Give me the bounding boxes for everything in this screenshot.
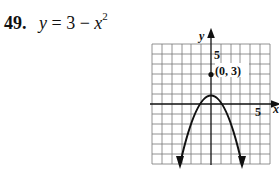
x-tick-label: 5: [255, 105, 261, 119]
vertex-point: [208, 72, 213, 77]
axes: [150, 33, 276, 165]
parabola-graph: y x 5 5 (0, 3): [0, 0, 279, 177]
y-axis-label: y: [197, 29, 205, 43]
vertex-label: (0, 3): [215, 64, 241, 78]
arrow-left: [176, 156, 184, 169]
x-axis-label: x: [272, 102, 279, 116]
arrow-right: [238, 156, 246, 169]
y-tick-label: 5: [214, 48, 220, 62]
